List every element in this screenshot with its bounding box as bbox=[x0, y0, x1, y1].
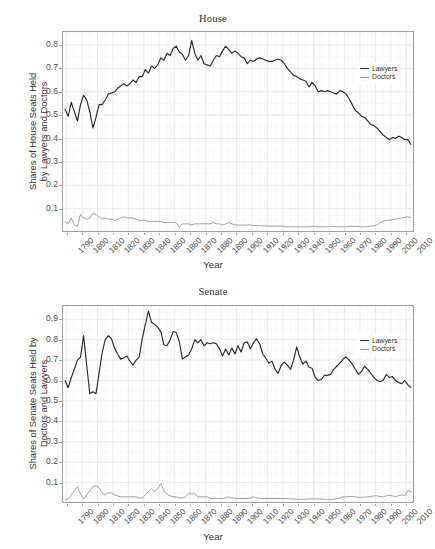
legend-label-lawyers: Lawyers bbox=[372, 65, 397, 73]
y-tick-mark bbox=[59, 162, 62, 163]
x-tick-label: 1930 bbox=[292, 507, 311, 526]
legend-item-doctors[interactable]: Doctors bbox=[360, 73, 397, 81]
x-tick-mark bbox=[82, 233, 83, 236]
panel-title-house: House bbox=[0, 13, 426, 24]
x-tick-label: 1900 bbox=[246, 236, 265, 255]
x-tick-label: 1960 bbox=[338, 236, 357, 255]
x-tick-label: 1800 bbox=[91, 236, 110, 255]
x-tick-label: 1930 bbox=[292, 236, 311, 255]
x-tick-mark bbox=[236, 504, 237, 507]
x-tick-label: 1910 bbox=[261, 507, 280, 526]
x-tick-mark bbox=[236, 233, 237, 236]
x-tick-label: 1970 bbox=[354, 236, 373, 255]
x-tick-mark bbox=[113, 233, 114, 236]
x-tick-label: 1920 bbox=[277, 507, 296, 526]
x-tick-mark bbox=[375, 504, 376, 507]
x-tick-label: 1840 bbox=[153, 236, 172, 255]
x-tick-mark bbox=[144, 233, 145, 236]
y-tick-label: 0.1 bbox=[32, 477, 58, 487]
x-tick-mark bbox=[314, 504, 315, 507]
y-tick-mark bbox=[59, 185, 62, 186]
x-tick-label: 1960 bbox=[338, 507, 357, 526]
x-tick-label: 1810 bbox=[107, 507, 126, 526]
x-tick-label: 2010 bbox=[416, 236, 435, 255]
legend-house[interactable]: Lawyers Doctors bbox=[358, 62, 400, 84]
y-tick-mark bbox=[59, 483, 62, 484]
y-tick-mark bbox=[59, 319, 62, 320]
x-tick-mark bbox=[206, 233, 207, 236]
y-tick-label: 0.6 bbox=[32, 86, 58, 96]
legend-key-doctors-icon bbox=[360, 73, 369, 81]
x-tick-label: 1940 bbox=[308, 236, 327, 255]
x-tick-mark bbox=[175, 233, 176, 236]
x-tick-label: 1860 bbox=[184, 507, 203, 526]
x-tick-mark bbox=[283, 504, 284, 507]
x-tick-mark bbox=[391, 504, 392, 507]
x-tick-mark bbox=[113, 504, 114, 507]
legend-label-lawyers: Lawyers bbox=[372, 337, 397, 345]
y-tick-mark bbox=[59, 442, 62, 443]
x-tick-mark bbox=[406, 504, 407, 507]
x-tick-label: 1870 bbox=[199, 507, 218, 526]
x-tick-mark bbox=[267, 233, 268, 236]
y-tick-mark bbox=[59, 115, 62, 116]
y-tick-label: 0.4 bbox=[32, 415, 58, 425]
x-tick-mark bbox=[252, 504, 253, 507]
y-tick-mark bbox=[59, 139, 62, 140]
x-tick-mark bbox=[345, 504, 346, 507]
x-tick-label: 1950 bbox=[323, 236, 342, 255]
x-tick-mark bbox=[298, 504, 299, 507]
x-tick-mark bbox=[159, 233, 160, 236]
x-tick-label: 1950 bbox=[323, 507, 342, 526]
legend-key-lawyers-icon bbox=[360, 65, 369, 73]
legend-senate[interactable]: Lawyers Doctors bbox=[358, 334, 400, 356]
y-tick-label: 0.2 bbox=[32, 179, 58, 189]
x-tick-label: 2000 bbox=[400, 507, 419, 526]
x-tick-label: 1920 bbox=[277, 236, 296, 255]
x-tick-label: 2010 bbox=[416, 507, 435, 526]
x-tick-label: 2000 bbox=[400, 236, 419, 255]
x-tick-label: 1990 bbox=[385, 236, 404, 255]
y-tick-label: 0.3 bbox=[32, 156, 58, 166]
x-tick-label: 1790 bbox=[76, 507, 95, 526]
x-tick-label: 1880 bbox=[215, 507, 234, 526]
y-tick-label: 0.8 bbox=[32, 334, 58, 344]
x-tick-mark bbox=[391, 233, 392, 236]
legend-item-lawyers[interactable]: Lawyers bbox=[360, 337, 397, 345]
x-tick-mark bbox=[206, 504, 207, 507]
y-tick-label: 0.7 bbox=[32, 354, 58, 364]
x-axis-label-house: Year bbox=[0, 259, 426, 270]
x-tick-mark bbox=[128, 233, 129, 236]
legend-item-lawyers[interactable]: Lawyers bbox=[360, 65, 397, 73]
legend-label-doctors: Doctors bbox=[372, 345, 395, 353]
x-tick-mark bbox=[329, 233, 330, 236]
y-tick-mark bbox=[59, 68, 62, 69]
y-tick-mark bbox=[59, 381, 62, 382]
x-tick-mark bbox=[175, 504, 176, 507]
x-tick-mark bbox=[98, 504, 99, 507]
x-tick-label: 1940 bbox=[308, 507, 327, 526]
x-tick-label: 1900 bbox=[246, 507, 265, 526]
x-tick-label: 1850 bbox=[169, 507, 188, 526]
legend-item-doctors[interactable]: Doctors bbox=[360, 345, 397, 353]
x-tick-mark bbox=[98, 233, 99, 236]
x-tick-mark bbox=[375, 233, 376, 236]
y-tick-label: 0.7 bbox=[32, 62, 58, 72]
x-tick-label: 1830 bbox=[138, 507, 157, 526]
x-tick-mark bbox=[221, 233, 222, 236]
x-tick-mark bbox=[267, 504, 268, 507]
y-tick-mark bbox=[59, 209, 62, 210]
x-tick-label: 1850 bbox=[169, 236, 188, 255]
x-axis-label-senate: Year bbox=[0, 531, 426, 542]
x-tick-mark bbox=[283, 233, 284, 236]
panel-title-senate: Senate bbox=[0, 286, 426, 297]
x-tick-mark bbox=[252, 233, 253, 236]
y-tick-label: 0.3 bbox=[32, 436, 58, 446]
x-tick-mark bbox=[82, 504, 83, 507]
x-tick-mark bbox=[159, 504, 160, 507]
x-tick-label: 1880 bbox=[215, 236, 234, 255]
x-tick-mark bbox=[360, 233, 361, 236]
y-tick-label: 0.2 bbox=[32, 456, 58, 466]
legend-key-lawyers-icon bbox=[360, 337, 369, 345]
